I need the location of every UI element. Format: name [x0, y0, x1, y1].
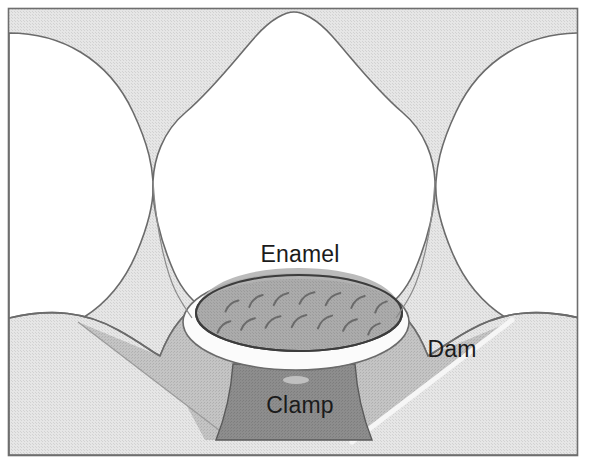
dental-illustration-figure: Enamel Dam Clamp	[0, 0, 589, 470]
figure-canvas: Enamel Dam Clamp	[0, 0, 589, 470]
label-enamel: Enamel	[260, 241, 339, 267]
label-dam: Dam	[427, 336, 476, 362]
label-clamp: Clamp	[266, 392, 333, 418]
clamp-highlight	[283, 376, 309, 384]
